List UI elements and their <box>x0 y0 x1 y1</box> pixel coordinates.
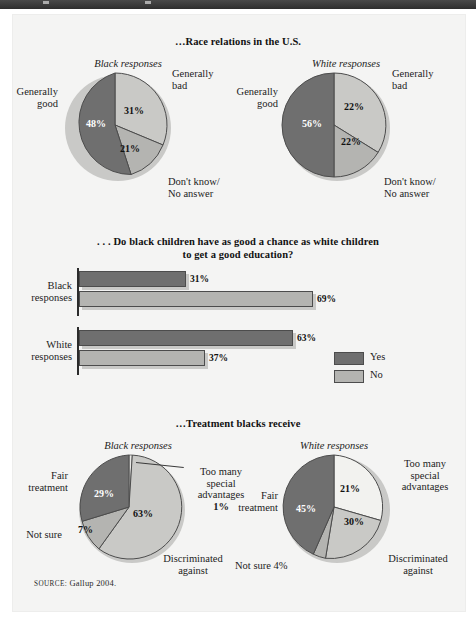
value-race-black-good: 48% <box>86 118 106 129</box>
value-treat-white-discriminated: 30% <box>344 516 364 527</box>
section-title-treatment: …Treatment blacks receive <box>128 418 348 429</box>
pie-race-black <box>62 72 168 178</box>
infographic-page: …Race relations in the U.S. Black respon… <box>0 0 476 621</box>
bar-white-yes <box>79 330 293 346</box>
section-title-race-relations: …Race relations in the U.S. <box>108 36 368 47</box>
bar-value-black-yes: 31% <box>190 274 209 284</box>
value-treat-white-too-many: 21% <box>340 483 360 494</box>
label-race-white-dont-know: Don't know/ No answer <box>384 176 458 199</box>
label-race-white-generally-bad: Generally bad <box>392 68 454 91</box>
label-treat-black-discriminated: Discriminated against <box>150 553 236 576</box>
value-race-black-dontknow: 21% <box>120 143 140 154</box>
bar-value-white-yes: 63% <box>297 333 316 343</box>
bar-black-no <box>79 291 313 307</box>
value-treat-white-fair: 45% <box>296 503 316 514</box>
source-prefix: SOURCE: <box>34 580 67 588</box>
bar-white-no <box>79 350 205 366</box>
source-note: SOURCE: Gallup 2004. <box>34 578 116 588</box>
banner-mark-left <box>43 1 49 4</box>
value-race-white-bad: 22% <box>344 101 364 112</box>
legend-swatch-no <box>334 370 364 383</box>
pie-race-white <box>281 72 387 178</box>
label-treat-white-too-many: Too many special advantages <box>386 458 464 493</box>
value-treat-black-too-many: 1% <box>213 501 229 512</box>
bar-value-black-no: 69% <box>317 294 336 304</box>
label-treat-white-fair: Fair treatment <box>228 490 278 513</box>
bar-black-yes <box>79 271 186 287</box>
value-race-white-dontknow: 22% <box>341 136 361 147</box>
pie-label-treat-black: Black responses <box>78 440 198 451</box>
legend-label-no: No <box>370 369 383 380</box>
cropped-banner-strip <box>0 0 476 9</box>
label-treat-black-fair: Fair treatment <box>10 470 68 493</box>
pie-label-treat-white: White responses <box>274 440 394 451</box>
value-treat-black-notsure: 7% <box>78 524 93 535</box>
label-treat-white-discriminated: Discriminated against <box>374 553 462 576</box>
label-race-black-generally-good: Generally good <box>6 86 58 109</box>
value-race-black-bad: 31% <box>124 105 144 116</box>
label-treat-white-not-sure: Not sure 4% <box>235 560 321 572</box>
pie-label-race-white: White responses <box>286 58 406 69</box>
label-race-black-generally-bad: Generally bad <box>172 68 234 91</box>
bar-group-label-white: White responses <box>14 339 72 363</box>
legend-swatch-yes <box>334 352 364 365</box>
source-text: Gallup 2004. <box>69 578 116 588</box>
section-title-education-line1: . . . Do black children have as good a c… <box>58 236 418 247</box>
pie-treatment-black <box>76 454 182 560</box>
value-race-white-good: 56% <box>302 118 322 129</box>
pie-label-race-black: Black responses <box>68 58 188 69</box>
pie-race-white-svg <box>281 72 387 178</box>
label-race-black-dont-know: Don't know/ No answer <box>168 176 242 199</box>
label-race-white-generally-good: Generally good <box>226 86 278 109</box>
legend-label-yes: Yes <box>370 351 385 362</box>
section-title-education-line2: to get a good education? <box>58 249 418 260</box>
value-treat-black-fair: 29% <box>94 488 114 499</box>
bar-value-white-no: 37% <box>209 353 228 363</box>
bar-group-label-black: Black responses <box>14 280 72 304</box>
value-treat-black-discriminated: 63% <box>133 508 153 519</box>
label-treat-black-not-sure: Not sure <box>8 529 62 541</box>
pie-treatment-black-svg <box>76 454 182 560</box>
pie-race-black-svg <box>62 72 168 178</box>
banner-mark-right <box>145 1 151 4</box>
